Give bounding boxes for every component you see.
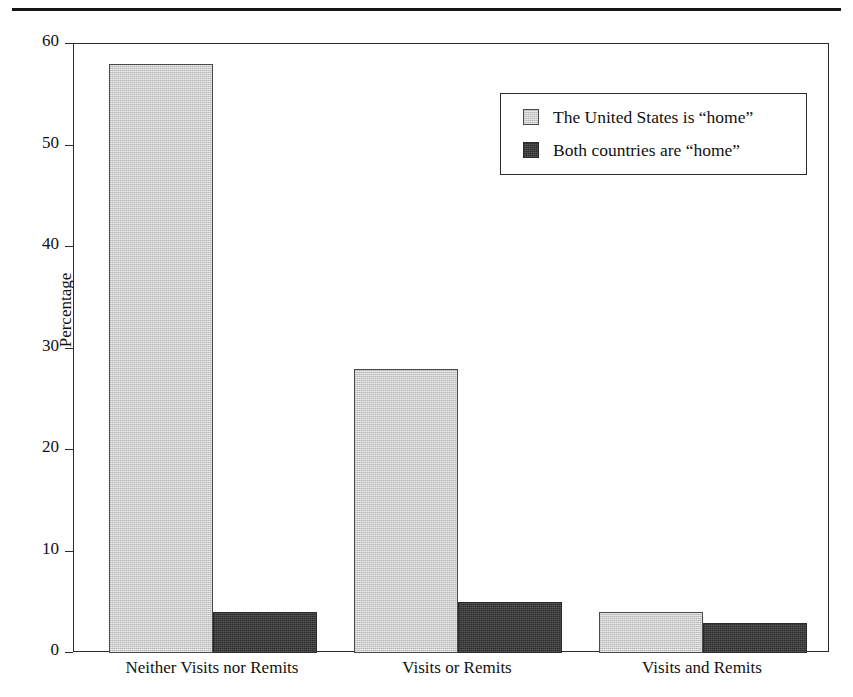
y-axis-tick-label: 40 [42,234,59,254]
chart-legend: The United States is “home” Both countri… [500,93,807,175]
x-axis-category-label: Visits and Remits [542,658,853,678]
y-axis-tick-label: 60 [42,31,59,51]
legend-item-united-states: The United States is “home” [523,107,753,127]
legend-label-both-countries: Both countries are “home” [553,140,740,161]
y-axis-tick-mark [65,551,73,552]
legend-swatch-light-gray-icon [523,109,539,125]
y-axis-tick-label: 0 [51,640,60,660]
bar [109,64,213,653]
legend-label-united-states: The United States is “home” [553,107,753,128]
y-axis-tick-mark [65,449,73,450]
y-axis-tick-mark [65,348,73,349]
bar [354,369,458,653]
y-axis-tick-label: 20 [42,437,59,457]
y-axis-tick-mark [65,145,73,146]
bar-chart-figure: Percentage 0102030405060 Neither Visits … [0,0,853,697]
y-axis-tick-label: 10 [42,539,59,559]
y-axis-tick-mark [65,652,73,653]
bar [458,602,562,653]
bar [213,612,317,653]
bar [599,612,703,653]
bar [703,623,807,653]
y-axis-tick-label: 30 [42,336,59,356]
y-axis-tick-mark [65,246,73,247]
legend-swatch-dark-gray-icon [523,142,539,158]
legend-item-both-countries: Both countries are “home” [523,140,740,160]
y-axis-tick-mark [65,43,73,44]
y-axis-tick-label: 50 [42,133,59,153]
